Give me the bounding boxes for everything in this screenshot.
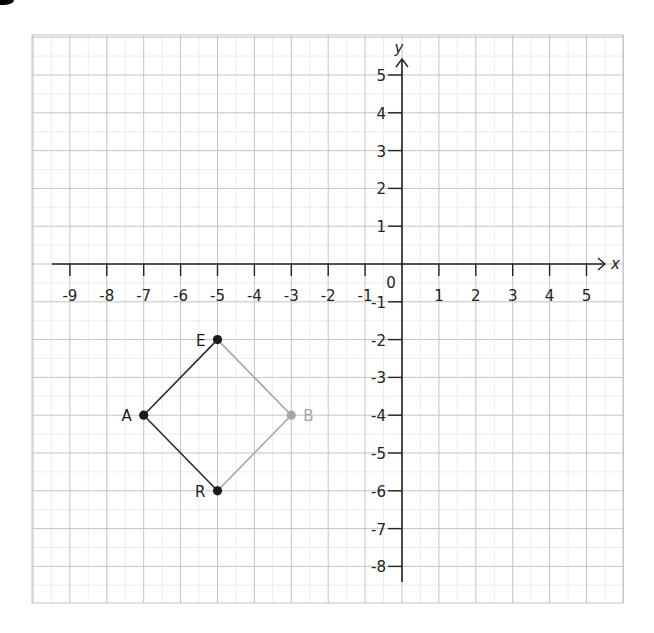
point-a-dot [139, 411, 148, 420]
origin-label: 0 [386, 274, 396, 292]
point-e-dot [213, 335, 222, 344]
x-tick-label: 2 [471, 287, 481, 305]
grid-major-lines [32, 35, 623, 603]
point-b-dot [287, 411, 296, 420]
point-e-label: E [196, 332, 205, 350]
y-tick-label: -5 [371, 445, 386, 463]
x-tick-label: 4 [545, 287, 555, 305]
x-tick-label: 5 [582, 287, 592, 305]
y-tick-label: -8 [371, 558, 386, 576]
y-axis-ticks: 54321-1-2-3-4-5-6-7-8 [371, 67, 402, 576]
y-tick-label: 2 [376, 180, 386, 198]
grid-border [32, 35, 623, 603]
x-tick-label: 1 [434, 287, 444, 305]
x-tick-label: -4 [247, 287, 262, 305]
y-tick-label: -4 [371, 407, 386, 425]
y-tick-label: 3 [376, 143, 386, 161]
x-tick-label: -8 [99, 287, 114, 305]
y-tick-label: -6 [371, 483, 386, 501]
x-tick-label: -7 [136, 287, 151, 305]
x-tick-label: -5 [210, 287, 225, 305]
x-tick-label: -2 [321, 287, 336, 305]
y-tick-label: -2 [371, 332, 386, 350]
x-axis-label: x [610, 255, 620, 273]
y-tick-label: -3 [371, 369, 386, 387]
y-axis-label: y [394, 39, 405, 57]
y-tick-label: 5 [376, 67, 386, 85]
y-tick-label: 1 [376, 218, 386, 236]
x-tick-label: -6 [173, 287, 188, 305]
grid-minor-lines [32, 35, 623, 603]
y-tick-label: -1 [371, 294, 386, 312]
x-axis-ticks: -9-8-7-6-5-4-3-2-112345 [62, 264, 591, 305]
point-b-label: B [303, 407, 313, 425]
y-tick-label: 4 [376, 105, 386, 123]
x-tick-label: 3 [508, 287, 518, 305]
point-r-label: R [195, 483, 205, 501]
x-tick-label: -3 [284, 287, 299, 305]
y-tick-label: -7 [371, 521, 386, 539]
point-r-dot [213, 486, 222, 495]
point-a-label: A [121, 407, 132, 425]
x-tick-label: -9 [62, 287, 77, 305]
coordinate-plane: -9-8-7-6-5-4-3-2-112345 54321-1-2-3-4-5-… [0, 0, 654, 633]
